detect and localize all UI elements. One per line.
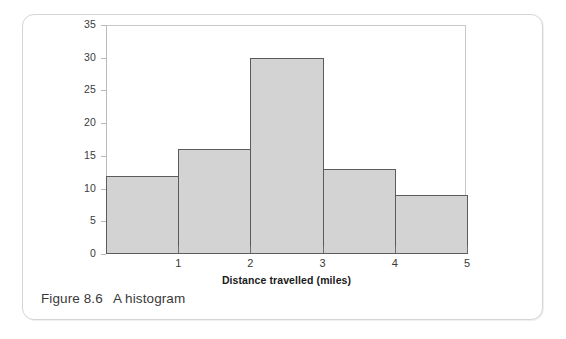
histogram-bar — [178, 149, 251, 254]
x-tick-mark — [250, 246, 251, 253]
y-tick-label: 15 — [84, 149, 96, 161]
bar-group — [106, 25, 467, 254]
histogram-bar — [250, 58, 323, 254]
figure-card: 05101520253035 12345 Distance travelled … — [22, 14, 543, 320]
y-tick-label: 5 — [90, 214, 96, 226]
x-tick-mark — [467, 246, 468, 253]
figure-page: 05101520253035 12345 Distance travelled … — [0, 0, 566, 339]
x-tick-label: 4 — [392, 257, 398, 269]
y-tick-label: 35 — [84, 18, 96, 30]
figure-caption: Figure 8.6 A histogram — [41, 291, 185, 306]
y-tick-label: 30 — [84, 51, 96, 63]
histogram-bar — [106, 176, 179, 255]
x-tick-mark — [178, 246, 179, 253]
histogram-bar — [395, 195, 468, 254]
x-tick-label: 5 — [464, 257, 470, 269]
x-tick-label: 2 — [247, 257, 253, 269]
y-tick-label: 10 — [84, 182, 96, 194]
figure-caption-text: A histogram — [113, 291, 185, 306]
histogram-chart: 05101520253035 12345 Distance travelled … — [23, 15, 544, 267]
x-tick-mark — [323, 246, 324, 253]
x-tick-label: 3 — [320, 257, 326, 269]
y-tick-label: 25 — [84, 83, 96, 95]
y-tick-label: 20 — [84, 116, 96, 128]
x-tick-mark — [395, 246, 396, 253]
x-tick-label: 1 — [175, 257, 181, 269]
histogram-bar — [323, 169, 396, 254]
x-axis-title: Distance travelled (miles) — [106, 274, 467, 286]
y-axis-ticks: 05101520253035 — [23, 15, 106, 267]
figure-caption-label: Figure 8.6 — [41, 291, 103, 306]
